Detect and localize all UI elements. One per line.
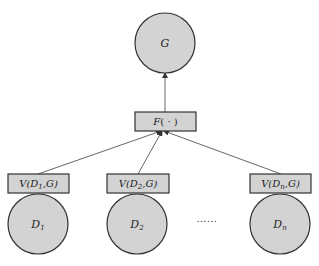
source-node-n: V(Dn,G) Dn (250, 174, 311, 254)
output-node-label: G (161, 37, 170, 50)
diagram-canvas: G F( · ) V(D1,G) D1 V(D2,G) D2 …… V(Dn,G… (0, 0, 319, 266)
aggregator-label: F( · ) (152, 116, 177, 127)
aggregator-node-f: F( · ) (135, 112, 196, 131)
output-node-g: G (135, 13, 195, 73)
ellipsis: …… (197, 213, 218, 224)
source-node-2: V(D2,G) D2 (107, 174, 169, 254)
edge-v1-to-f (38, 131, 161, 174)
edge-vn-to-f (164, 131, 281, 174)
source-node-1: V(D1,G) D1 (8, 174, 69, 254)
